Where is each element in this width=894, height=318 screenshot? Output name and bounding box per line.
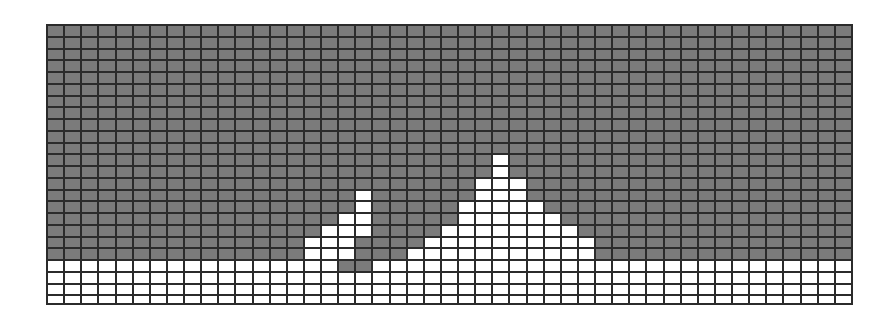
grid-cell-filled: [716, 120, 731, 130]
grid-cell-filled: [836, 179, 851, 189]
grid-cell-filled: [682, 61, 697, 71]
grid-cell-filled: [356, 144, 371, 154]
grid-cell-filled: [630, 38, 645, 48]
grid-cell-filled: [305, 50, 320, 60]
grid-cell-filled: [168, 202, 183, 212]
grid-cell-filled: [510, 132, 525, 142]
grid-cell-filled: [82, 191, 97, 201]
grid-cell-filled: [665, 73, 680, 83]
grid-cell-empty: [562, 226, 577, 236]
grid-cell-filled: [117, 132, 132, 142]
grid-cell-empty: [356, 214, 371, 224]
grid-cell-filled: [322, 191, 337, 201]
grid-cell-empty: [442, 226, 457, 236]
grid-cell-empty: [271, 273, 286, 283]
grid-cell-filled: [528, 108, 543, 118]
grid-cell-filled: [391, 85, 406, 95]
grid-cell-filled: [271, 155, 286, 165]
grid-cell-filled: [596, 167, 611, 177]
grid-cell-filled: [665, 167, 680, 177]
grid-cell-filled: [562, 155, 577, 165]
grid-cell-filled: [391, 191, 406, 201]
grid-cell-filled: [493, 26, 508, 36]
grid-cell-filled: [271, 144, 286, 154]
grid-cell-filled: [733, 50, 748, 60]
grid-cell-empty: [322, 273, 337, 283]
grid-cell-filled: [647, 155, 662, 165]
grid-cell-filled: [716, 179, 731, 189]
grid-cell-filled: [99, 191, 114, 201]
grid-cell-empty: [288, 296, 303, 303]
grid-cell-filled: [819, 226, 834, 236]
grid-cell-filled: [48, 132, 63, 142]
grid-cell-filled: [202, 155, 217, 165]
grid-cell-filled: [665, 214, 680, 224]
grid-cell-filled: [236, 155, 251, 165]
grid-cell-empty: [305, 296, 320, 303]
grid-cell-filled: [168, 120, 183, 130]
grid-cell-empty: [545, 238, 560, 248]
grid-cell-empty: [408, 249, 423, 259]
grid-cell-filled: [613, 26, 628, 36]
grid-cell-filled: [134, 167, 149, 177]
grid-cell-empty: [493, 273, 508, 283]
grid-cell-filled: [836, 132, 851, 142]
grid-cell-filled: [322, 120, 337, 130]
grid-cell-filled: [699, 73, 714, 83]
grid-cell-filled: [65, 26, 80, 36]
grid-cell-empty: [459, 285, 474, 295]
grid-cell-filled: [288, 38, 303, 48]
grid-cell-filled: [271, 226, 286, 236]
grid-cell-filled: [48, 97, 63, 107]
grid-cell-empty: [596, 261, 611, 271]
grid-cell-empty: [322, 226, 337, 236]
grid-cell-empty: [459, 296, 474, 303]
grid-cell-empty: [750, 285, 765, 295]
grid-cell-filled: [236, 85, 251, 95]
grid-cell-filled: [288, 202, 303, 212]
grid-cell-filled: [579, 85, 594, 95]
grid-cell-filled: [802, 249, 817, 259]
grid-cell-empty: [99, 261, 114, 271]
grid-cell-filled: [596, 249, 611, 259]
grid-cell-filled: [562, 108, 577, 118]
grid-cell-filled: [236, 238, 251, 248]
grid-cell-filled: [254, 144, 269, 154]
grid-cell-filled: [82, 26, 97, 36]
grid-cell-empty: [271, 261, 286, 271]
grid-cell-filled: [682, 144, 697, 154]
grid-cell-empty: [117, 273, 132, 283]
grid-cell-filled: [699, 167, 714, 177]
grid-cell-filled: [784, 85, 799, 95]
grid-cell-filled: [82, 238, 97, 248]
grid-cell-filled: [151, 38, 166, 48]
grid-cell-filled: [271, 108, 286, 118]
grid-cell-empty: [647, 296, 662, 303]
grid-cell-filled: [750, 132, 765, 142]
grid-cell-filled: [322, 50, 337, 60]
grid-cell-filled: [733, 144, 748, 154]
grid-cell-filled: [613, 144, 628, 154]
grid-cell-filled: [630, 214, 645, 224]
grid-cell-empty: [168, 296, 183, 303]
grid-cell-empty: [699, 285, 714, 295]
grid-cell-filled: [408, 97, 423, 107]
grid-cell-filled: [254, 132, 269, 142]
grid-cell-filled: [665, 50, 680, 60]
grid-cell-filled: [236, 120, 251, 130]
grid-cell-filled: [750, 238, 765, 248]
grid-cell-filled: [493, 120, 508, 130]
grid-cell-empty: [442, 296, 457, 303]
grid-cell-filled: [339, 120, 354, 130]
grid-cell-filled: [373, 50, 388, 60]
grid-cell-empty: [48, 285, 63, 295]
grid-cell-empty: [373, 285, 388, 295]
grid-cell-filled: [836, 155, 851, 165]
grid-cell-filled: [613, 238, 628, 248]
grid-cell-filled: [699, 26, 714, 36]
grid-cell-filled: [630, 26, 645, 36]
grid-cell-filled: [733, 202, 748, 212]
grid-cell-filled: [322, 202, 337, 212]
grid-cell-filled: [219, 167, 234, 177]
grid-cell-filled: [82, 108, 97, 118]
